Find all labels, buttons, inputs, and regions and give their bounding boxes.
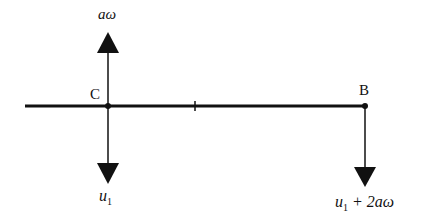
label-b: B <box>359 82 369 99</box>
diagram-svg <box>0 0 428 220</box>
arrow-down-icon <box>97 106 119 184</box>
label-c-down-sub: 1 <box>107 196 112 207</box>
diagram-canvas: aω C B u1 u1 + 2aω <box>0 0 428 220</box>
label-c: C <box>90 86 100 103</box>
label-c-down-main: u <box>99 187 107 204</box>
label-b-down-main: u <box>335 193 343 210</box>
label-c-down: u1 <box>99 187 112 207</box>
arrow-down-b-icon <box>354 106 376 187</box>
label-b-down-rest: + 2aω <box>348 193 394 210</box>
label-c-up: aω <box>98 6 116 23</box>
label-b-down: u1 + 2aω <box>335 193 394 213</box>
arrow-up-icon <box>97 32 119 106</box>
